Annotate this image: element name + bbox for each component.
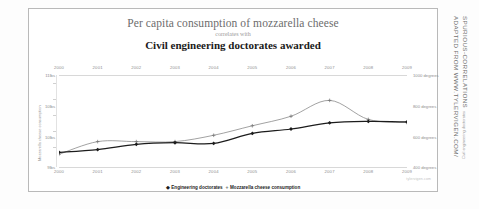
x-tick-label: 2006 xyxy=(286,169,296,174)
source-note: tylervigen.com xyxy=(406,177,431,181)
page-title: Per capita consumption of mozzarella che… xyxy=(29,17,437,29)
x-tick-label: 2004 xyxy=(209,65,219,70)
data-point-engineering-doctorates xyxy=(212,142,216,146)
y-axis-left-spine xyxy=(56,75,57,167)
attribution-line-2: SPURIOUS-CORRELATIONS xyxy=(460,16,469,108)
y-axis-tick xyxy=(53,147,56,148)
data-point-engineering-doctorates xyxy=(250,132,254,136)
y-tick-label-right: 1000 degrees xyxy=(413,73,439,78)
data-point-engineering-doctorates xyxy=(289,127,293,131)
line-engineering-doctorates xyxy=(59,121,407,152)
diamond-marker-icon: ◆ xyxy=(166,185,170,190)
data-point-mozzarella-cheese-consumption xyxy=(289,114,293,118)
legend-item-engineering-doctorates[interactable]: ◆ Engineering doctorates xyxy=(166,185,223,190)
line-mozzarella-cheese-consumption xyxy=(59,100,407,154)
x-tick-label: 2000 xyxy=(54,169,64,174)
chart-legend: ◆ Engineering doctorates + Mozzarella ch… xyxy=(29,185,437,190)
chart-frame: Per capita consumption of mozzarella che… xyxy=(28,8,438,192)
data-point-engineering-doctorates xyxy=(96,148,100,152)
attribution-block: ADAPTED FROM WWW.TYLERVIGEN.COM/ SPURIOU… xyxy=(452,16,474,196)
y-tick-label-left: 9lbs xyxy=(47,165,55,170)
x-tick-label: 2001 xyxy=(93,169,103,174)
legend-item-mozzarella-cheese-consumption[interactable]: + Mozzarella cheese consumption xyxy=(226,185,301,190)
y-axis-tick xyxy=(53,99,56,100)
y-axis-tick xyxy=(53,131,56,132)
y-tick-label-right: 400 degrees xyxy=(413,165,436,170)
points-engineering-doctorates xyxy=(59,120,407,155)
chart-title-block: Per capita consumption of mozzarella che… xyxy=(29,17,437,51)
x-tick-label: 2000 xyxy=(54,65,64,70)
data-point-engineering-doctorates xyxy=(405,120,407,124)
x-axis-bottom-line xyxy=(59,167,407,168)
chart-subtitle: Civil engineering doctorates awarded xyxy=(29,39,437,51)
x-tick-label: 2009 xyxy=(402,169,412,174)
x-tick-label: 2005 xyxy=(247,65,257,70)
correlates-with-label: correlates with xyxy=(29,31,437,37)
x-tick-label: 2001 xyxy=(93,65,103,70)
data-point-mozzarella-cheese-consumption xyxy=(251,124,255,128)
y-axis-tick xyxy=(53,83,56,84)
x-axis-top-labels: 2000 2001 2002 2003 2004 2005 2006 2007 … xyxy=(59,65,407,73)
x-tick-label: 2005 xyxy=(247,169,257,174)
x-tick-label: 2002 xyxy=(131,65,141,70)
chart-page: Per capita consumption of mozzarella che… xyxy=(0,0,479,209)
y-tick-label-right: 600 degrees xyxy=(413,135,436,140)
y-tick-label-left: 11lbs xyxy=(45,73,55,78)
x-tick-label: 2007 xyxy=(325,65,335,70)
data-point-mozzarella-cheese-consumption xyxy=(96,140,100,144)
plus-marker-icon: + xyxy=(226,185,229,190)
x-tick-label: 2006 xyxy=(286,65,296,70)
series-svg xyxy=(59,75,407,167)
data-point-engineering-doctorates xyxy=(134,142,138,146)
data-point-mozzarella-cheese-consumption xyxy=(328,99,332,103)
x-tick-label: 2003 xyxy=(170,65,180,70)
y-tick-label-left: 10lbs xyxy=(45,104,55,109)
legend-label: Mozzarella cheese consumption xyxy=(230,185,300,190)
legend-label: Engineering doctorates xyxy=(171,185,222,190)
x-axis-bottom-labels: 2000 2001 2002 2003 2004 2005 2006 2007 … xyxy=(59,169,407,177)
data-point-mozzarella-cheese-consumption xyxy=(212,133,216,137)
x-tick-label: 2008 xyxy=(363,65,373,70)
y-axis-left-title: Mozzarella cheese consumption xyxy=(37,105,42,161)
y-tick-label-left: 10lbs xyxy=(45,135,55,140)
x-tick-label: 2004 xyxy=(209,169,219,174)
y-axis-tick xyxy=(53,115,56,116)
attribution-line-1: ADAPTED FROM WWW.TYLERVIGEN.COM/ xyxy=(451,16,460,157)
data-point-engineering-doctorates xyxy=(328,121,332,125)
x-tick-label: 2002 xyxy=(131,169,141,174)
y-tick-label-right: 800 degrees xyxy=(413,104,436,109)
x-tick-label: 2008 xyxy=(363,169,373,174)
x-tick-label: 2009 xyxy=(402,65,412,70)
plot-area xyxy=(59,75,407,167)
x-tick-label: 2007 xyxy=(325,169,335,174)
x-tick-label: 2003 xyxy=(170,169,180,174)
